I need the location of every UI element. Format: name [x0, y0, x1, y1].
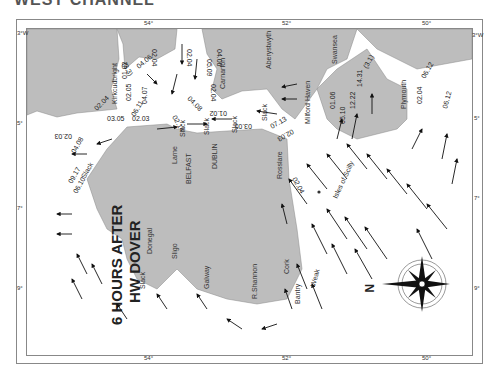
isles-of-scilly-marker	[317, 190, 320, 193]
place-dublin: DUBLIN	[211, 143, 218, 169]
place-cork: Cork	[283, 259, 290, 274]
rate-label: 02.05	[125, 83, 132, 101]
compass-rose: N	[362, 256, 450, 312]
place-rosslare: Rosslare	[276, 151, 283, 179]
scale-tick-top: 50°	[422, 20, 431, 26]
scale-tick-top: 54°	[144, 20, 153, 26]
rate-label: 04.07	[141, 86, 148, 104]
rate-label: 12.22	[349, 91, 356, 109]
rate-label: 04.06	[216, 49, 223, 67]
scale-tick-left: 3°W	[17, 30, 28, 36]
scale-tick-right: 9°	[474, 285, 480, 291]
place-larne: Larne	[171, 146, 178, 164]
place-aberystwyth: Aberystwyth	[265, 31, 273, 69]
scale-tick-left: 7°	[17, 205, 23, 211]
place-galway: Galway	[203, 265, 211, 289]
rate-label: 01.06	[329, 91, 336, 109]
rate-label: 02.04	[151, 49, 158, 67]
map-title: 6 HOURS AFTER HW DOVER	[108, 205, 143, 325]
rate-label: 02.03	[54, 133, 72, 140]
place-kirkcudbright: Kirkcudbright	[111, 63, 119, 104]
slack-label: Slack	[203, 117, 210, 135]
place-sligo: Sligo	[171, 243, 179, 259]
place-milford-haven: Milford Haven	[304, 81, 311, 124]
rate-label: 02.03	[132, 115, 150, 122]
rate-label: 04.08	[186, 95, 203, 112]
rate-label: 03.05	[234, 123, 252, 130]
slack-label: Slack	[139, 271, 146, 289]
place-donegal: Donegal	[146, 227, 154, 254]
place-r-shannon: R.Shannon	[251, 264, 258, 299]
place-plymouth: Plymouth	[400, 80, 408, 109]
rate-label: 07.13	[269, 115, 288, 130]
place-bantry: Bantry	[294, 283, 302, 304]
rate-label: 05.09	[206, 59, 213, 77]
place-isles-of-scilly: Isles of Scilly	[332, 159, 357, 199]
rate-label: 02.04	[186, 49, 193, 67]
scale-tick-left: 5°	[17, 120, 23, 126]
rate-label: 02.04	[210, 84, 217, 102]
scale-tick-bottom: 54°	[144, 355, 153, 361]
map-canvas: 6 HOURS AFTER HW DOVER Kirkcudbright Car…	[27, 29, 472, 355]
rate-label: 02.04	[416, 86, 423, 104]
place-swansea: Swansea	[331, 35, 338, 64]
scale-tick-left: 9°	[17, 285, 23, 291]
scale-tick-right: 3°W	[472, 32, 483, 38]
tidal-stream-map: 6 HOURS AFTER HW DOVER Kirkcudbright Car…	[26, 28, 473, 356]
page-title: WEST CHANNEL	[14, 0, 155, 9]
scale-tick-bottom: 52°	[282, 355, 291, 361]
scale-tick-bottom: 50°	[422, 355, 431, 361]
map-title-line1: 6 HOURS AFTER	[108, 205, 125, 325]
rate-label: 05.10	[339, 106, 346, 124]
scale-tick-top: 52°	[282, 20, 291, 26]
rate-label: 01.02	[209, 110, 227, 117]
rate-label: 14.31	[356, 69, 363, 87]
place-belfast: BELFAST	[185, 153, 192, 184]
map-title-line2: HW DOVER	[126, 220, 143, 303]
scale-tick-right: 7°	[474, 195, 480, 201]
weak-label: Weak	[309, 268, 320, 287]
rate-label: 03.05	[107, 115, 125, 122]
compass-north-label: N	[362, 284, 376, 293]
rate-label: 06.12	[441, 90, 452, 109]
scale-tick-right: 5°	[474, 115, 480, 121]
